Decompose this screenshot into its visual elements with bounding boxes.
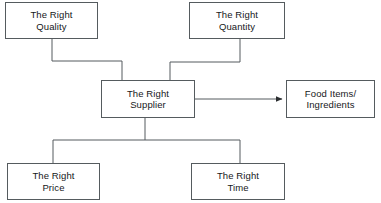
node-the-right-price[interactable]: The Right Price bbox=[7, 163, 100, 200]
node-label-price: The Right Price bbox=[30, 170, 76, 193]
node-the-right-supplier[interactable]: The Right Supplier bbox=[101, 80, 195, 118]
node-the-right-quality[interactable]: The Right Quality bbox=[5, 2, 98, 39]
connector-quantity-to-supplier bbox=[170, 39, 240, 80]
node-label-output: Food Items/ Ingredients bbox=[303, 88, 358, 111]
node-label-quality: The Right Quality bbox=[28, 9, 74, 32]
connector-quality-to-supplier bbox=[52, 39, 122, 80]
node-label-supplier: The Right Supplier bbox=[125, 88, 171, 111]
node-food-items-ingredients[interactable]: Food Items/ Ingredients bbox=[286, 80, 375, 118]
node-the-right-time[interactable]: The Right Time bbox=[191, 163, 285, 200]
diagram-canvas: The Right Quality The Right Quantity The… bbox=[0, 0, 381, 203]
node-label-quantity: The Right Quantity bbox=[214, 9, 260, 32]
node-the-right-quantity[interactable]: The Right Quantity bbox=[189, 2, 285, 39]
node-label-time: The Right Time bbox=[215, 170, 261, 193]
